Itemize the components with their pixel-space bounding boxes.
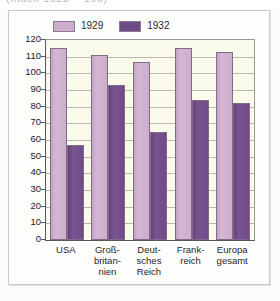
category-label-line: Reich [128,266,170,277]
y-axis-tick-label: 100 [9,68,41,78]
bar-1932-3 [192,100,209,240]
category-label: USA [45,244,87,255]
y-axis-tick-mark [41,89,45,90]
chart-page: (Index 1928 = 100) 1929 1932 USAGroß-bri… [0,0,280,301]
category-label-line: britan- [87,255,129,266]
y-axis-tick-mark [41,189,45,190]
y-axis-tick-mark [41,206,45,207]
y-axis-tick-mark [41,139,45,140]
legend-swatch-1932-icon [119,21,141,32]
plot-area [45,39,255,241]
y-axis-tick-label: 120 [9,34,41,44]
chart-legend: 1929 1932 [53,19,170,33]
category-label-line: Groß- [87,244,129,255]
y-axis-tick-mark [41,222,45,223]
category-label-line: Frank- [170,244,212,255]
bar-1932-2 [150,132,167,240]
legend-item-1932: 1932 [119,21,169,32]
category-label-line: gesamt [211,255,253,266]
y-axis-tick-mark [41,156,45,157]
y-axis-tick-mark [41,122,45,123]
y-axis-tick-mark [41,39,45,40]
bar-group [171,40,213,240]
y-axis-tick-label: 40 [9,168,41,178]
bar-1929-0 [50,48,67,240]
category-label-line: Deut- [128,244,170,255]
y-axis-tick-mark [41,56,45,57]
y-axis-tick-label: 60 [9,134,41,144]
chart-frame: 1929 1932 USAGroß-britan-nienDeut-schesR… [8,10,270,285]
bar-1929-2 [133,62,150,240]
category-axis-labels: USAGroß-britan-nienDeut-schesReichFrank-… [45,244,255,292]
bar-1929-1 [91,55,108,240]
y-axis-tick-label: 0 [9,234,41,244]
bar-group [129,40,171,240]
bar-group [88,40,130,240]
y-axis-tick-label: 50 [9,151,41,161]
y-axis-tick-mark [41,72,45,73]
bar-1932-4 [233,103,250,240]
legend-label-1929: 1929 [81,21,103,31]
y-axis-tick-label: 10 [9,218,41,228]
legend-label-1932: 1932 [147,21,169,31]
y-axis-tick-label: 30 [9,184,41,194]
category-label-line: Europa [211,244,253,255]
y-axis-tick-mark [41,106,45,107]
bar-1932-1 [108,85,125,240]
bar-group [46,40,88,240]
legend-swatch-1929-icon [53,21,75,32]
category-label: Europagesamt [211,244,253,266]
y-axis-tick-mark [41,239,45,240]
y-axis-tick-label: 20 [9,201,41,211]
category-label-line: nien [87,266,129,277]
y-axis-tick-label: 110 [9,51,41,61]
y-axis-tick-label: 80 [9,101,41,111]
cropped-caption-sliver: (Index 1928 = 100) [0,0,280,9]
y-axis-tick-mark [41,172,45,173]
category-label-line: reich [170,255,212,266]
legend-item-1929: 1929 [53,21,103,32]
bar-1929-4 [216,52,233,240]
category-label-line: sches [128,255,170,266]
category-label-line: USA [45,244,87,255]
category-label: Deut-schesReich [128,244,170,277]
category-label: Groß-britan-nien [87,244,129,277]
bar-group [212,40,254,240]
bar-1929-3 [175,48,192,240]
cropped-caption-text: (Index 1928 = 100) [6,0,108,4]
category-label: Frank-reich [170,244,212,266]
bar-1932-0 [67,145,84,240]
y-axis-tick-label: 90 [9,84,41,94]
y-axis-tick-label: 70 [9,118,41,128]
